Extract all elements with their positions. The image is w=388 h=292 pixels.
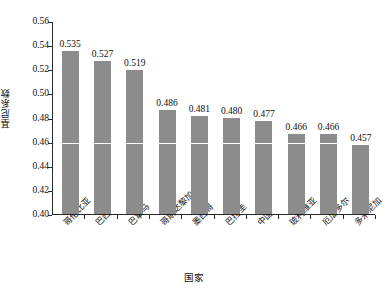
y-tick-label: 0.42 — [32, 185, 49, 196]
bar — [320, 134, 337, 214]
x-axis-title: 国家 — [0, 270, 388, 284]
bar — [223, 118, 240, 215]
y-tick-label: 0.52 — [32, 64, 49, 75]
bar-value-label: 0.477 — [248, 109, 280, 120]
y-tick-label: 0.50 — [32, 88, 49, 99]
y-axis-title: 基尼系数 — [0, 88, 14, 128]
bar-value-label: 0.481 — [183, 104, 215, 115]
y-axis-line — [52, 22, 53, 215]
x-tick-mark — [375, 215, 376, 219]
x-tick-mark — [149, 215, 150, 219]
bar-value-label: 0.486 — [151, 98, 183, 109]
y-tick-label: 0.40 — [32, 209, 49, 220]
x-tick-mark — [84, 215, 85, 219]
y-tick-label: 0.48 — [32, 113, 49, 124]
bar — [159, 110, 176, 214]
bar — [255, 121, 272, 214]
bar-value-label: 0.519 — [119, 58, 151, 69]
bar-value-label: 0.457 — [345, 133, 377, 144]
bar-value-label: 0.466 — [280, 122, 312, 133]
y-tick-label: 0.46 — [32, 137, 49, 148]
x-tick-mark — [214, 215, 215, 219]
x-tick-mark — [343, 215, 344, 219]
bar — [352, 145, 369, 214]
x-tick-mark — [181, 215, 182, 219]
y-tick-label: 0.56 — [32, 16, 49, 27]
gini-coefficient-bar-chart: 基尼系数 0.560.540.520.500.480.460.440.420.4… — [0, 0, 388, 292]
plot-area: 0.560.540.520.500.480.460.440.420.40 0.5… — [52, 22, 375, 215]
y-tick-label: 0.44 — [32, 161, 49, 172]
x-tick-mark — [117, 215, 118, 219]
bar-value-label: 0.466 — [313, 122, 345, 133]
highlight-gridline — [53, 143, 375, 144]
x-tick-mark — [246, 215, 247, 219]
bar — [191, 116, 208, 214]
bar — [62, 51, 79, 214]
y-tick-label: 0.54 — [32, 40, 49, 51]
x-tick-mark — [278, 215, 279, 219]
bar-value-label: 0.535 — [54, 39, 86, 50]
x-tick-mark — [310, 215, 311, 219]
bar — [94, 61, 111, 214]
bar-value-label: 0.480 — [216, 106, 248, 117]
bar — [288, 134, 305, 214]
bar-value-label: 0.527 — [86, 49, 118, 60]
